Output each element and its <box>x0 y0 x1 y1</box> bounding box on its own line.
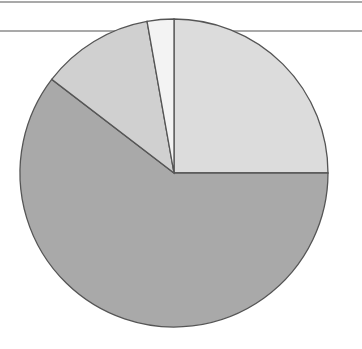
pie-slice-1 <box>174 19 328 173</box>
pie-chart <box>0 0 362 349</box>
pie-slices <box>20 19 328 327</box>
